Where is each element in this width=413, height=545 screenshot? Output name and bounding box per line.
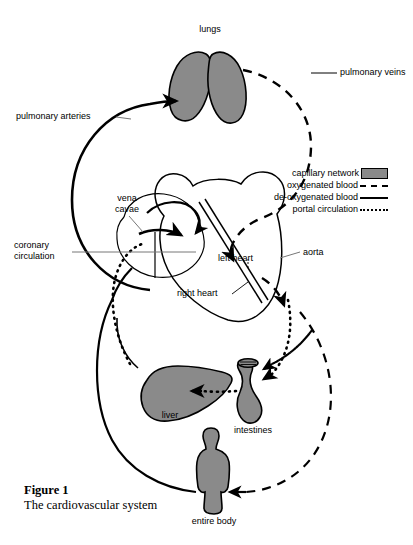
figure-number: Figure 1 (24, 483, 157, 498)
legend-label-portal-circulation: portal circulation (292, 204, 358, 214)
figure-title: The cardiovascular system (24, 498, 157, 513)
dashed-line-icon (360, 181, 388, 190)
entire-body-label: entire body (178, 516, 250, 527)
lungs-shape (169, 52, 246, 123)
pulmonary-veins-label: pulmonary veins (340, 67, 406, 78)
legend-item-portal-circulation: portal circulation (248, 203, 388, 215)
lungs-label: lungs (175, 24, 245, 35)
left-heart-label: left heart (218, 253, 253, 264)
legend-item-capillary-network: capillary network (248, 167, 388, 179)
leader-aorta (280, 252, 300, 258)
legend: capillary network oxygenated blood de-ox… (248, 167, 388, 215)
right-heart-label: right heart (177, 288, 218, 299)
coronary-circulation-label: coronary circulation (14, 240, 55, 262)
legend-label-deoxygenated-blood: de-oxygenated blood (274, 192, 358, 202)
portal-descending-arrow (264, 374, 272, 379)
intestine-artery-path (272, 330, 312, 364)
intestines-label: intestines (222, 425, 284, 436)
legend-label-oxygenated-blood: oxygenated blood (287, 180, 358, 190)
intestines-shape (237, 359, 262, 423)
entire-body-shape (197, 428, 230, 514)
intestine-artery-arrow (264, 364, 272, 369)
legend-item-oxygenated-blood: oxygenated blood (248, 179, 388, 191)
pulmonary-arteries-label: pulmonary arteries (16, 111, 91, 122)
figure-page: lungs pulmonary arteries pulmonary veins… (0, 0, 413, 545)
cardiovascular-diagram (0, 0, 413, 545)
figure-caption: Figure 1 The cardiovascular system (24, 483, 157, 513)
solid-line-icon (360, 193, 388, 202)
leader-vena-cavae (129, 216, 143, 232)
legend-item-deoxygenated-blood: de-oxygenated blood (248, 191, 388, 203)
liver-label: liver (146, 410, 194, 421)
legend-label-capillary-network: capillary network (292, 168, 359, 178)
dotted-line-icon (360, 205, 388, 214)
aorta-label: aorta (303, 247, 324, 258)
leader-pulmonary-arteries (116, 117, 131, 119)
capillary-network-swatch-icon (361, 168, 388, 179)
vena-cavae-label: vena cavae (99, 193, 155, 215)
